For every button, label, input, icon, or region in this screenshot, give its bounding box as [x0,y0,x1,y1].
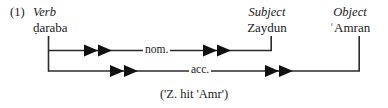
translation-gloss: ('Z. hit 'Amr') [0,88,388,101]
case-label-accusative: acc. [189,64,211,76]
nominative-arrowhead-2 [98,45,112,57]
nominative-arrowhead-4 [217,45,231,57]
nominative-arrowhead-3 [203,45,217,57]
case-label-nominative: nom. [143,44,170,56]
accusative-arrowhead-4 [279,65,293,77]
accusative-arrowhead-2 [124,65,138,77]
linguistics-example-figure: (1) Verb ḍaraba Subject Zaydun Object ʿA… [0,0,388,108]
accusative-arrowhead-1 [110,65,124,77]
nominative-arrowhead-1 [84,45,98,57]
accusative-arrowhead-3 [265,65,279,77]
